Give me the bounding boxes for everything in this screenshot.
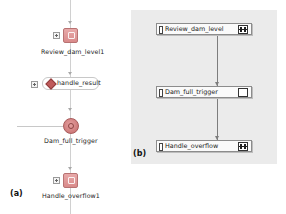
event-node-dam-full-trigger[interactable]	[63, 118, 79, 134]
connector-line	[217, 33, 218, 86]
node-label: Review_dam_level1	[41, 48, 104, 55]
flow-box-dam-full-trigger[interactable]: Dam_full_trigger	[156, 86, 252, 98]
split-icon	[238, 25, 248, 34]
handle-icon	[159, 89, 163, 97]
connector-line	[217, 97, 218, 140]
box-label: Handle_overflow	[165, 141, 218, 151]
expand-icon[interactable]	[31, 81, 38, 88]
arrow-icon	[68, 167, 72, 170]
node-label: Dam_full_trigger	[44, 137, 98, 144]
checker-icon	[238, 88, 248, 97]
flow-box-review-dam-level[interactable]: Review_dam_level	[156, 23, 252, 35]
arrow-icon	[68, 72, 72, 75]
arrow-icon	[68, 21, 72, 24]
panel-b-flow-diagram: Review_dam_level Dam_full_trigger Handle…	[131, 10, 277, 164]
handle-icon	[159, 143, 163, 151]
task-node-review-dam-level1[interactable]	[63, 28, 78, 43]
node-label: handle_result	[57, 79, 101, 86]
split-icon	[238, 142, 248, 151]
box-label: Review_dam_level	[165, 24, 224, 34]
task-node-handle-overflow1[interactable]	[63, 173, 78, 188]
panel-label-a: (a)	[10, 189, 23, 198]
box-label: Dam_full_trigger	[165, 87, 218, 97]
incoming-flow-line	[17, 126, 63, 127]
arrow-icon	[68, 108, 72, 111]
expand-icon[interactable]	[53, 32, 60, 39]
expand-icon[interactable]	[53, 177, 60, 184]
panel-label-b: (b)	[133, 149, 146, 158]
flow-box-handle-overflow[interactable]: Handle_overflow	[156, 140, 252, 152]
node-label: Handle_overflow1	[42, 192, 100, 199]
handle-icon	[159, 26, 163, 34]
